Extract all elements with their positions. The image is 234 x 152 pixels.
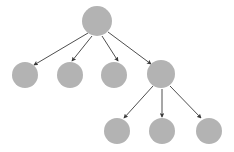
tree-diagram-canvas bbox=[0, 0, 234, 152]
child-node-4[interactable] bbox=[147, 60, 175, 88]
child-node-2[interactable] bbox=[57, 62, 83, 88]
edge-root-to-child-3 bbox=[102, 36, 118, 61]
edge-child4-to-grandchild-1 bbox=[124, 86, 153, 118]
root-node[interactable] bbox=[82, 6, 112, 36]
grandchild-node-2[interactable] bbox=[149, 118, 175, 144]
edge-root-to-child-4 bbox=[108, 32, 151, 64]
tree-diagram-svg bbox=[0, 0, 234, 152]
edge-root-to-child-1 bbox=[34, 33, 88, 65]
edge-root-to-child-2 bbox=[72, 36, 92, 61]
edge-child4-to-grandchild-3 bbox=[170, 86, 201, 118]
grandchild-node-1[interactable] bbox=[104, 118, 130, 144]
child-node-1[interactable] bbox=[12, 62, 38, 88]
grandchild-node-3[interactable] bbox=[196, 118, 222, 144]
child-node-3[interactable] bbox=[101, 62, 127, 88]
node-layer bbox=[12, 6, 222, 144]
